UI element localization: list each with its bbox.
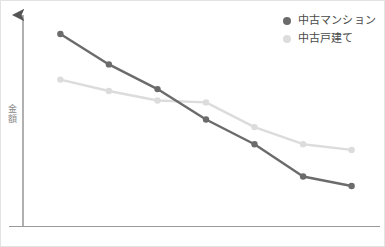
data-point-marker bbox=[203, 116, 209, 122]
data-point-marker bbox=[154, 97, 160, 103]
series-layer bbox=[57, 31, 355, 189]
legend-label-kodate: 中古戸建て bbox=[298, 33, 354, 44]
data-point-marker bbox=[106, 88, 112, 94]
data-point-marker bbox=[348, 147, 354, 153]
data-point-marker bbox=[251, 124, 257, 130]
legend-swatch-mansion bbox=[283, 17, 291, 25]
series-line bbox=[60, 34, 351, 186]
data-point-marker bbox=[57, 31, 63, 37]
data-point-marker bbox=[251, 141, 257, 147]
data-point-marker bbox=[348, 183, 354, 189]
data-point-marker bbox=[154, 86, 160, 92]
legend-swatch-kodate bbox=[283, 35, 291, 43]
y-axis-title: 金額 bbox=[5, 104, 19, 124]
legend-item-mansion[interactable]: 中古マンション bbox=[283, 15, 376, 26]
data-point-marker bbox=[57, 76, 63, 82]
data-point-marker bbox=[300, 141, 306, 147]
data-point-marker bbox=[203, 99, 209, 105]
legend-item-kodate[interactable]: 中古戸建て bbox=[283, 33, 376, 44]
chart-legend: 中古マンション 中古戸建て bbox=[283, 15, 376, 44]
series-line bbox=[60, 80, 351, 150]
chart-figure: 金額 中古マンション 中古戸建て bbox=[0, 0, 385, 247]
data-point-marker bbox=[106, 61, 112, 67]
legend-label-mansion: 中古マンション bbox=[298, 15, 376, 26]
data-point-marker bbox=[300, 173, 306, 179]
